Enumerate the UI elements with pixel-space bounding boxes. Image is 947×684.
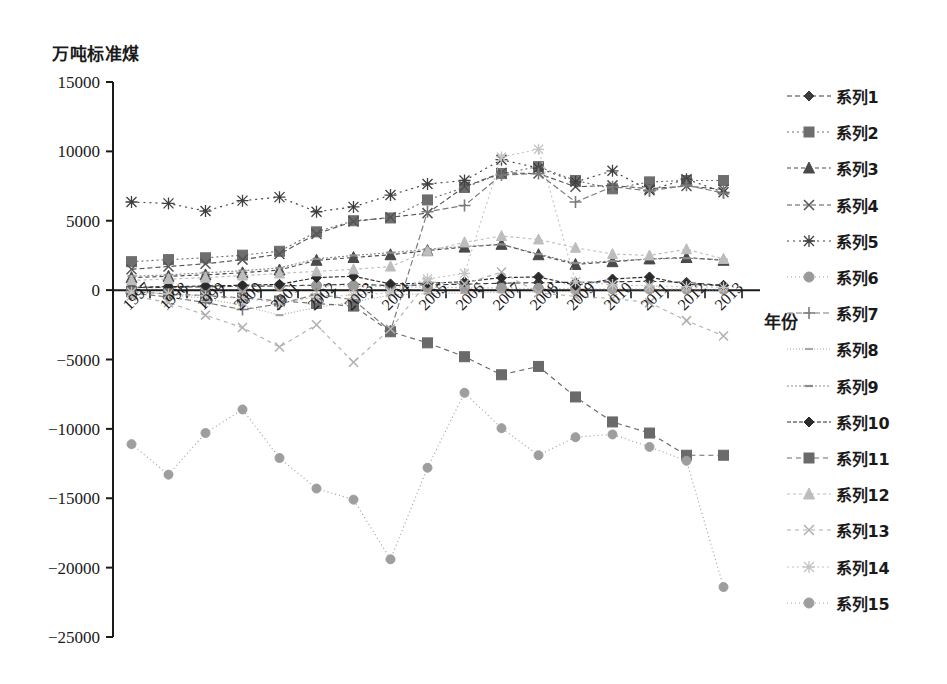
legend-marker-x-icon xyxy=(786,522,832,538)
chart-legend: 系列1系列2系列3系列4系列5系列6系列7系列8系列9系列10系列11系列12系… xyxy=(786,78,947,621)
legend-marker-circle-icon xyxy=(786,595,832,611)
x-tick-label: 2007 xyxy=(490,279,524,313)
x-tick-label: 2008 xyxy=(527,279,561,313)
legend-item-2[interactable]: 系列2 xyxy=(786,114,947,150)
data-point-marker xyxy=(803,307,815,319)
legend-marker-triangle-icon xyxy=(786,486,832,502)
legend-label: 系列7 xyxy=(832,301,879,325)
legend-marker-dash-icon xyxy=(786,378,832,394)
x-tick-label: 2004 xyxy=(379,279,413,313)
legend-label: 系列11 xyxy=(832,446,889,470)
legend-item-12[interactable]: 系列12 xyxy=(786,476,947,512)
legend-item-5[interactable]: 系列5 xyxy=(786,223,947,259)
legend-label: 系列4 xyxy=(832,193,879,217)
data-point-marker xyxy=(804,272,814,282)
legend-item-9[interactable]: 系列9 xyxy=(786,368,947,404)
legend-item-4[interactable]: 系列4 xyxy=(786,187,947,223)
legend-item-11[interactable]: 系列11 xyxy=(786,440,947,476)
legend-item-7[interactable]: 系列7 xyxy=(786,295,947,331)
x-tick-label: 1998 xyxy=(157,279,191,313)
data-point-marker xyxy=(804,127,814,137)
x-tick-label: 2009 xyxy=(564,279,598,313)
legend-item-13[interactable]: 系列13 xyxy=(786,512,947,548)
legend-label: 系列8 xyxy=(832,337,879,361)
legend-label: 系列13 xyxy=(832,518,889,542)
legend-marker-square-icon xyxy=(786,124,832,140)
data-point-marker xyxy=(804,162,815,173)
x-tick-label: 1997 xyxy=(120,279,154,313)
x-tick-label: 2013 xyxy=(712,279,746,313)
x-tick-label: 2005 xyxy=(416,279,450,313)
legend-item-8[interactable]: 系列8 xyxy=(786,331,947,367)
x-tick-label: 1999 xyxy=(194,279,228,313)
legend-marker-asterisk-icon xyxy=(786,233,832,249)
legend-marker-plus-icon xyxy=(786,305,832,321)
legend-marker-square-icon xyxy=(786,450,832,466)
x-tick-label: 2012 xyxy=(675,279,709,313)
legend-label: 系列12 xyxy=(832,482,889,506)
legend-marker-triangle-icon xyxy=(786,160,832,176)
x-tick-label: 2010 xyxy=(601,279,635,313)
legend-label: 系列9 xyxy=(832,374,879,398)
data-point-marker xyxy=(804,91,814,101)
data-point-marker xyxy=(803,235,815,247)
legend-marker-diamond-icon xyxy=(786,414,832,430)
legend-label: 系列14 xyxy=(832,555,889,579)
legend-item-3[interactable]: 系列3 xyxy=(786,150,947,186)
legend-marker-x-icon xyxy=(786,197,832,213)
legend-marker-dash-icon xyxy=(786,341,832,357)
legend-marker-asterisk-icon xyxy=(786,559,832,575)
x-tick-label: 2001 xyxy=(268,279,302,313)
data-point-marker xyxy=(804,598,814,608)
legend-marker-circle-icon xyxy=(786,269,832,285)
x-tick-label: 2003 xyxy=(342,279,376,313)
legend-item-10[interactable]: 系列10 xyxy=(786,404,947,440)
legend-label: 系列15 xyxy=(832,591,889,615)
legend-label: 系列1 xyxy=(832,84,879,108)
legend-item-1[interactable]: 系列1 xyxy=(786,78,947,114)
x-tick-label: 2000 xyxy=(231,279,265,313)
legend-item-6[interactable]: 系列6 xyxy=(786,259,947,295)
data-point-marker xyxy=(803,561,815,573)
legend-label: 系列10 xyxy=(832,410,889,434)
legend-label: 系列3 xyxy=(832,156,879,180)
x-tick-label: 2006 xyxy=(453,279,487,313)
x-tick-label: 2011 xyxy=(638,280,672,314)
data-point-marker xyxy=(804,417,814,427)
legend-marker-diamond-icon xyxy=(786,88,832,104)
x-tick-label: 2002 xyxy=(305,279,339,313)
legend-label: 系列2 xyxy=(832,120,879,144)
legend-label: 系列6 xyxy=(832,265,879,289)
legend-item-14[interactable]: 系列14 xyxy=(786,548,947,584)
legend-item-15[interactable]: 系列15 xyxy=(786,585,947,621)
line-chart: 万吨标准煤 150001000050000−5000−10000−15000−2… xyxy=(0,0,947,684)
legend-label: 系列5 xyxy=(832,229,879,253)
data-point-marker xyxy=(804,453,814,463)
